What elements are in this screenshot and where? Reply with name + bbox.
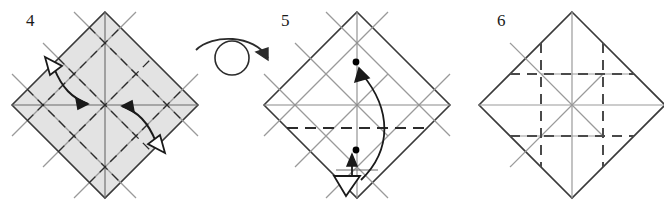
origami-instruction-figure: 4 5 6 [0,0,664,208]
panel-6-gray-creases [479,12,664,198]
panel-4-graphic [0,0,664,208]
reference-dot-lower [353,147,360,154]
panel-6-number: 6 [497,12,506,29]
panel-5-number: 5 [281,12,290,29]
panel-4-number: 4 [26,12,35,29]
turn-over-circle [215,41,249,75]
turn-over-symbol [196,39,268,75]
reference-dot-upper [353,59,360,66]
turn-over-arrowhead [256,48,268,60]
